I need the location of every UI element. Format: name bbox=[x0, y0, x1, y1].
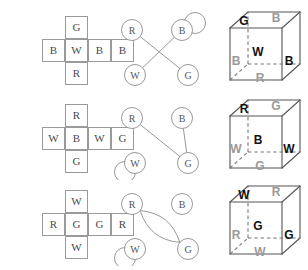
graph-node-r: R bbox=[122, 108, 143, 129]
graph-node-b: B bbox=[172, 20, 193, 41]
figure-row-3: WRGGRWRBWGGWRRGW bbox=[0, 178, 308, 266]
graph-node-w: W bbox=[125, 239, 146, 260]
adjacency-graph-3: RBWG bbox=[112, 178, 222, 266]
net-cell-top: W bbox=[65, 190, 88, 213]
cube-face-front: W bbox=[252, 45, 264, 59]
graph-node-g: G bbox=[178, 239, 199, 260]
graph-node-label: G bbox=[184, 158, 191, 169]
cube-face-back: G bbox=[271, 99, 280, 113]
net-cell-bottom: G bbox=[65, 150, 88, 173]
graph-node-label: G bbox=[184, 244, 191, 255]
graph-node-label: R bbox=[129, 199, 136, 210]
graph-node-label: B bbox=[179, 199, 186, 210]
cube-face-left: W bbox=[230, 142, 242, 156]
graph-node-w: W bbox=[125, 65, 146, 86]
folded-cube-3: GWRRGW bbox=[226, 182, 306, 264]
cube-face-left: R bbox=[232, 228, 241, 242]
folded-cube-1: WGBBBR bbox=[226, 8, 306, 90]
cube-face-right: B bbox=[285, 54, 294, 68]
cube-face-back: R bbox=[272, 185, 281, 199]
cube-face-back: B bbox=[272, 11, 281, 25]
net-cell-middle-2: W bbox=[88, 127, 111, 150]
graph-node-label: W bbox=[130, 244, 140, 255]
graph-edge-r-g bbox=[140, 211, 180, 243]
graph-edge-r-g bbox=[140, 211, 180, 243]
cube-face-front: B bbox=[254, 133, 263, 147]
net-cell-middle-0: W bbox=[42, 127, 65, 150]
net-cell-top: G bbox=[65, 16, 88, 39]
cube-face-bottom: R bbox=[256, 71, 265, 85]
net-cell-middle-0: B bbox=[42, 39, 65, 62]
graph-node-label: R bbox=[129, 113, 136, 124]
net-cell-middle-1: W bbox=[65, 39, 88, 62]
net-cell-middle-2: B bbox=[88, 39, 111, 62]
cube-puzzle-figure: GBWBBRRBWGWGBBBRRWBWGGRBWGBRGWWGWRGGRWRB… bbox=[0, 0, 308, 270]
net-cell-middle-2: G bbox=[88, 213, 111, 236]
figure-row-1: GBWBBRRBWGWGBBBR bbox=[0, 4, 308, 92]
adjacency-graph-1: RBWG bbox=[112, 4, 222, 92]
graph-node-g: G bbox=[178, 153, 199, 174]
net-cell-middle-1: B bbox=[65, 127, 88, 150]
figure-row-2: RWBWGGRBWGBRGWWG bbox=[0, 92, 308, 180]
cube-edge bbox=[282, 186, 300, 202]
cube-face-front: G bbox=[253, 219, 262, 233]
cube-face-right: W bbox=[283, 142, 295, 156]
net-cell-top: R bbox=[65, 104, 88, 127]
net-cell-middle-1: G bbox=[65, 213, 88, 236]
graph-node-b: B bbox=[172, 108, 193, 129]
cube-edge bbox=[282, 12, 300, 28]
graph-node-b: B bbox=[172, 194, 193, 215]
adjacency-graph-2: RBWG bbox=[112, 92, 222, 180]
graph-edge-r-g bbox=[140, 125, 180, 157]
graph-node-label: B bbox=[179, 113, 186, 124]
cube-face-left: B bbox=[232, 54, 241, 68]
net-cell-bottom: W bbox=[65, 236, 88, 259]
graph-node-label: W bbox=[130, 70, 140, 81]
net-cell-middle-0: R bbox=[42, 213, 65, 236]
cube-face-bottom: W bbox=[254, 245, 266, 259]
cube-face-top: W bbox=[238, 188, 250, 202]
graph-node-r: R bbox=[122, 20, 143, 41]
graph-node-r: R bbox=[122, 194, 143, 215]
cube-face-bottom: G bbox=[255, 159, 264, 173]
graph-node-label: R bbox=[129, 25, 136, 36]
graph-node-label: B bbox=[179, 25, 186, 36]
graph-node-w: W bbox=[125, 153, 146, 174]
cube-face-top: G bbox=[239, 14, 248, 28]
graph-node-label: G bbox=[184, 70, 191, 81]
graph-node-label: W bbox=[130, 158, 140, 169]
graph-node-g: G bbox=[178, 65, 199, 86]
cube-face-right: G bbox=[284, 228, 293, 242]
graph-edge-b-g bbox=[183, 128, 186, 152]
folded-cube-2: BRGWWG bbox=[226, 96, 306, 178]
net-cell-bottom: R bbox=[65, 62, 88, 85]
cube-edge bbox=[282, 100, 300, 116]
graph-edge-r-g bbox=[140, 37, 180, 69]
cube-face-top: R bbox=[240, 102, 249, 116]
